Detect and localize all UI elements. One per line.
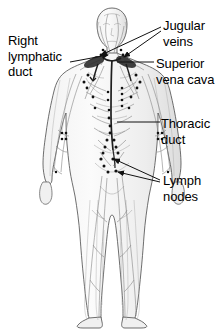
lymphatic-system-figure: Right lymphatic duct Jugular veins Super…	[0, 0, 224, 329]
label-jugular-veins: Jugular veins	[163, 18, 205, 49]
label-thoracic-duct: Thoracic duct	[161, 116, 210, 147]
label-superior-vena-cava: Superior vena cava	[156, 56, 214, 87]
label-lymph-nodes: Lymph nodes	[163, 173, 201, 204]
leader-jugular-veins-right	[124, 31, 161, 57]
label-right-lymphatic-duct: Right lymphatic duct	[8, 33, 62, 80]
